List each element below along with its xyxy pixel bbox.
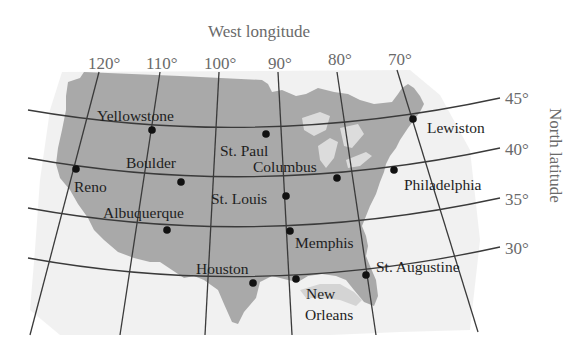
latitude-tick-35: 35° xyxy=(505,190,529,209)
longitude-tick-110: 110° xyxy=(146,54,178,73)
city-label-lewiston: Lewiston xyxy=(427,119,485,136)
city-label-houston: Houston xyxy=(196,260,249,277)
longitude-tick-120: 120° xyxy=(88,54,120,73)
city-dot-st-paul xyxy=(262,130,270,138)
city-dot-boulder xyxy=(177,178,185,186)
longitude-tick-80: 80° xyxy=(328,50,352,69)
city-label-reno: Reno xyxy=(74,178,107,195)
city-dot-philadelphia xyxy=(390,166,398,174)
city-label-columbus: Columbus xyxy=(253,158,317,175)
city-label-st-louis: St. Louis xyxy=(211,190,267,207)
longitude-tick-100: 100° xyxy=(204,54,236,73)
city-dot-new-orleans xyxy=(292,275,300,283)
city-dot-st-louis xyxy=(282,192,290,200)
north-latitude-title: North latitude xyxy=(546,108,565,203)
city-dot-yellowstone xyxy=(148,126,156,134)
latitude-tick-30: 30° xyxy=(505,239,529,258)
longitude-tick-90: 90° xyxy=(268,54,292,73)
city-dot-albuquerque xyxy=(163,226,171,234)
city-label-boulder: Boulder xyxy=(126,154,177,171)
city-dot-memphis xyxy=(286,227,294,235)
city-label-albuquerque: Albuquerque xyxy=(103,204,184,221)
city-label-st-augustine: St. Augustine xyxy=(376,258,460,275)
us-latitude-longitude-map: West longitude North latitude 120° 110° … xyxy=(0,0,579,346)
city-label-new-orleans-line2: Orleans xyxy=(305,306,353,323)
city-dot-columbus xyxy=(333,174,341,182)
city-label-philadelphia: Philadelphia xyxy=(404,176,482,193)
city-dot-lewiston xyxy=(409,115,417,123)
west-longitude-title: West longitude xyxy=(208,22,310,41)
city-dot-reno xyxy=(72,165,80,173)
city-label-yellowstone: Yellowstone xyxy=(97,107,174,124)
city-label-memphis: Memphis xyxy=(295,234,354,251)
city-label-new-orleans-line1: New xyxy=(306,285,336,302)
latitude-tick-40: 40° xyxy=(505,140,529,159)
latitude-tick-45: 45° xyxy=(505,89,529,108)
longitude-tick-70: 70° xyxy=(388,50,412,69)
city-dot-st-augustine xyxy=(362,271,370,279)
city-label-st-paul: St. Paul xyxy=(220,142,268,159)
city-dot-houston xyxy=(249,279,257,287)
